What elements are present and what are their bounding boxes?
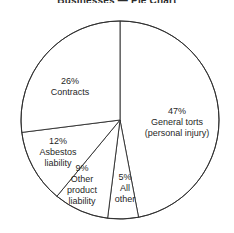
pie-label-percent: 9% [56, 163, 108, 174]
pie-label-name-line1: All [105, 183, 145, 194]
pie-label-name-line2: other [105, 194, 145, 205]
pie-label-name-line2: (personal injury) [131, 128, 223, 139]
pie-label-all-other: 5% All other [105, 172, 145, 205]
pie-label-name-line1: General torts [131, 117, 223, 128]
pie-label-percent: 47% [131, 106, 223, 117]
pie-label-name-line1: Contracts [36, 87, 104, 98]
pie-label-name-line2: product [56, 185, 108, 196]
pie-label-general-torts: 47% General torts (personal injury) [131, 106, 223, 139]
pie-label-other-product-liability: 9% Other product liability [56, 163, 108, 207]
pie-label-name-line1: Other [56, 174, 108, 185]
pie-label-name-line1: Asbestos [24, 147, 92, 158]
pie-label-percent: 5% [105, 172, 145, 183]
pie-label-contracts: 26% Contracts [36, 76, 104, 98]
pie-label-percent: 12% [24, 136, 92, 147]
pie-label-name-line3: liability [56, 196, 108, 207]
chart-page: Businesses — Pie Chart 47% General torts… [0, 0, 234, 233]
pie-label-percent: 26% [36, 76, 104, 87]
